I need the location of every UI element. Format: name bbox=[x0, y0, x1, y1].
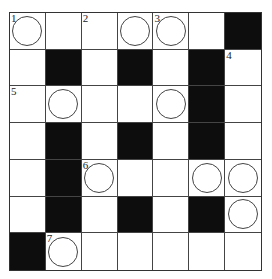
grid-cell[interactable] bbox=[82, 86, 118, 123]
grid-cell[interactable]: 7 bbox=[46, 233, 82, 270]
grid-cell[interactable] bbox=[189, 233, 225, 270]
grid-cell[interactable] bbox=[153, 233, 189, 270]
black-square bbox=[189, 197, 225, 234]
grid-cell[interactable] bbox=[225, 197, 261, 234]
black-square bbox=[189, 86, 225, 123]
circle-marker-icon bbox=[48, 237, 78, 267]
circle-marker-icon bbox=[228, 199, 258, 229]
black-square bbox=[46, 50, 82, 87]
grid-cell[interactable]: 6 bbox=[82, 160, 118, 197]
grid-cell[interactable] bbox=[118, 233, 154, 270]
grid-cell[interactable]: 4 bbox=[225, 50, 261, 87]
circle-marker-icon bbox=[48, 89, 78, 119]
crossword-grid: 1234567 bbox=[9, 12, 262, 271]
circle-marker-icon bbox=[192, 163, 222, 193]
circle-marker-icon bbox=[12, 16, 42, 46]
clue-number: 6 bbox=[83, 160, 89, 171]
grid-cell[interactable] bbox=[153, 160, 189, 197]
circle-marker-icon bbox=[228, 163, 258, 193]
grid-cell[interactable] bbox=[10, 123, 46, 160]
black-square bbox=[10, 233, 46, 270]
grid-cell[interactable] bbox=[189, 160, 225, 197]
circle-marker-icon bbox=[156, 16, 186, 46]
clue-number: 1 bbox=[11, 13, 17, 24]
grid-cell[interactable] bbox=[46, 86, 82, 123]
grid-cell[interactable] bbox=[153, 123, 189, 160]
grid-cell[interactable] bbox=[10, 197, 46, 234]
grid-cell[interactable] bbox=[153, 50, 189, 87]
clue-number: 7 bbox=[47, 233, 53, 244]
grid-cell[interactable] bbox=[225, 160, 261, 197]
grid-cell[interactable]: 1 bbox=[10, 13, 46, 50]
clue-number: 3 bbox=[154, 13, 160, 24]
clue-number: 4 bbox=[226, 50, 232, 61]
clue-number: 5 bbox=[11, 86, 17, 97]
grid-cell[interactable] bbox=[10, 160, 46, 197]
grid-cell[interactable] bbox=[82, 123, 118, 160]
grid-cell[interactable]: 5 bbox=[10, 86, 46, 123]
black-square bbox=[118, 50, 154, 87]
black-square bbox=[118, 123, 154, 160]
grid-cell[interactable] bbox=[82, 50, 118, 87]
grid-cell[interactable] bbox=[225, 86, 261, 123]
grid-cell[interactable] bbox=[82, 233, 118, 270]
black-square bbox=[46, 160, 82, 197]
grid-cell[interactable]: 3 bbox=[153, 13, 189, 50]
grid-cell[interactable]: 2 bbox=[82, 13, 118, 50]
clue-number: 2 bbox=[83, 13, 89, 24]
black-square bbox=[118, 197, 154, 234]
circle-marker-icon bbox=[156, 89, 186, 119]
grid-cell[interactable] bbox=[46, 13, 82, 50]
black-square bbox=[189, 123, 225, 160]
grid-cell[interactable] bbox=[225, 233, 261, 270]
grid-cell[interactable] bbox=[118, 160, 154, 197]
grid-cell[interactable] bbox=[118, 13, 154, 50]
grid-cell[interactable] bbox=[225, 123, 261, 160]
grid-cell[interactable] bbox=[189, 13, 225, 50]
black-square bbox=[46, 197, 82, 234]
circle-marker-icon bbox=[84, 163, 114, 193]
black-square bbox=[46, 123, 82, 160]
black-square bbox=[189, 50, 225, 87]
grid-cell[interactable] bbox=[153, 86, 189, 123]
grid-cell[interactable] bbox=[10, 50, 46, 87]
grid-cell[interactable] bbox=[153, 197, 189, 234]
circle-marker-icon bbox=[120, 16, 150, 46]
black-square bbox=[225, 13, 261, 50]
grid-cell[interactable] bbox=[82, 197, 118, 234]
grid-cell[interactable] bbox=[118, 86, 154, 123]
